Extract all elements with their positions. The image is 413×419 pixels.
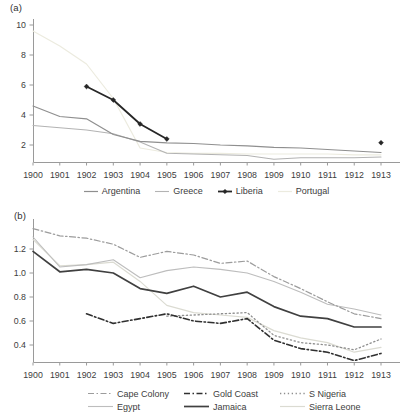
chart-b: 0.40.60.81.01.21900190119021903190419051…	[14, 219, 400, 380]
x-tick-label: 1904	[130, 370, 150, 380]
x-tick-label: 1903	[104, 370, 124, 380]
legend-sample-jamaica	[184, 402, 209, 411]
x-tick-label: 1904	[130, 170, 150, 180]
x-tick-label: 1902	[77, 370, 97, 380]
y-tick-label: 10	[16, 20, 26, 30]
x-tick-label: 1907	[211, 170, 231, 180]
series-cape-colony-line	[33, 229, 381, 319]
legend-row: Cape ColonyGold CoastS Nigeria	[88, 387, 376, 400]
marker-diamond	[223, 189, 227, 193]
legend-item-label: Jamaica	[213, 402, 247, 412]
x-tick-label: 1905	[157, 170, 177, 180]
legend-sample-s-nigeria	[280, 389, 305, 398]
legend-sample-egypt	[88, 402, 113, 411]
legend-item-sierra-leone: Sierra Leone	[280, 402, 376, 412]
x-tick-label: 1907	[211, 370, 231, 380]
panel-b-legend: Cape ColonyGold CoastS NigeriaEgyptJamai…	[88, 387, 376, 413]
legend-sample-cape-colony	[88, 389, 113, 398]
x-tick-label: 1903	[104, 170, 124, 180]
series-liberia	[84, 84, 383, 145]
x-tick-label: 1910	[291, 370, 311, 380]
y-tick-label: 8	[21, 50, 26, 60]
y-tick-label: 0.4	[14, 340, 26, 350]
chart-canvas: 2468101900190119021903190419051906190719…	[0, 0, 413, 419]
y-tick-label: 6	[21, 80, 26, 90]
series-argentina	[33, 106, 381, 153]
y-tick-label: 1.2	[14, 244, 26, 254]
series-egypt	[33, 237, 381, 315]
y-tick-label: 0.8	[14, 292, 26, 302]
marker-diamond	[379, 140, 384, 145]
legend-sample-portugal	[278, 187, 292, 196]
chart-a: 2468101900190119021903190419051906190719…	[16, 19, 400, 180]
x-tick-label: 1906	[184, 370, 204, 380]
legend-item-label: Gold Coast	[213, 389, 258, 399]
x-tick-label: 1905	[157, 370, 177, 380]
series-egypt-line	[33, 237, 381, 315]
x-tick-label: 1901	[50, 170, 70, 180]
x-tick-label: 1911	[318, 370, 337, 380]
x-tick-label: 1911	[318, 170, 337, 180]
legend-item-s-nigeria: S Nigeria	[280, 389, 376, 399]
x-tick-label: 1912	[344, 170, 364, 180]
legend-item-label: Liberia	[236, 186, 263, 196]
x-tick-label: 1912	[344, 370, 364, 380]
x-tick-label: 1910	[291, 170, 311, 180]
chart-b-axes	[34, 219, 401, 363]
legend-item-egypt: Egypt	[88, 402, 184, 412]
x-tick-label: 1901	[50, 370, 70, 380]
series-sierra-leone	[33, 239, 381, 352]
legend-item-label: S Nigeria	[309, 389, 346, 399]
legend-sample-sierra-leone	[280, 402, 305, 411]
x-tick-label: 1913	[371, 370, 391, 380]
legend-item-gold-coast: Gold Coast	[184, 389, 280, 399]
x-tick-label: 1906	[184, 170, 204, 180]
legend-sample-greece	[155, 187, 169, 196]
legend-item-label: Portugal	[296, 186, 330, 196]
y-tick-label: 0.6	[14, 316, 26, 326]
x-tick-label: 1909	[264, 170, 284, 180]
series-portugal-line	[33, 31, 381, 155]
series-sierra-leone-line	[33, 239, 381, 352]
series-jamaica-line	[33, 251, 381, 327]
legend-sample-argentina	[84, 187, 98, 196]
legend-item-liberia: Liberia	[218, 186, 263, 196]
legend-sample-liberia	[218, 187, 232, 196]
series-cape-colony	[33, 229, 381, 319]
series-jamaica	[33, 251, 381, 327]
legend-item-label: Argentina	[102, 186, 141, 196]
x-tick-label: 1909	[264, 370, 284, 380]
x-tick-label: 1908	[237, 370, 257, 380]
x-tick-label: 1900	[23, 170, 43, 180]
x-tick-label: 1902	[77, 170, 97, 180]
legend-item-label: Greece	[173, 186, 203, 196]
legend-item-label: Egypt	[117, 402, 140, 412]
series-liberia-line	[87, 87, 167, 140]
series-portugal	[33, 31, 381, 155]
legend-item-label: Sierra Leone	[309, 402, 361, 412]
x-tick-label: 1900	[23, 370, 43, 380]
legend-item-greece: Greece	[155, 186, 203, 196]
legend-item-portugal: Portugal	[278, 186, 330, 196]
panel-a-legend: ArgentinaGreeceLiberiaPortugal	[0, 186, 413, 196]
legend-row: EgyptJamaicaSierra Leone	[88, 400, 376, 413]
legend-item-argentina: Argentina	[84, 186, 141, 196]
y-tick-label: 4	[21, 110, 26, 120]
x-tick-label: 1913	[371, 170, 391, 180]
legend-item-cape-colony: Cape Colony	[88, 389, 184, 399]
legend-sample-gold-coast	[184, 389, 209, 398]
y-tick-label: 1.0	[14, 268, 26, 278]
series-argentina-line	[33, 106, 381, 153]
legend-item-jamaica: Jamaica	[184, 402, 280, 412]
figure: (a) (b) 24681019001901190219031904190519…	[0, 0, 413, 419]
y-tick-label: 2	[21, 140, 26, 150]
chart-a-axes	[34, 19, 401, 163]
legend-item-label: Cape Colony	[117, 389, 169, 399]
x-tick-label: 1908	[237, 170, 257, 180]
